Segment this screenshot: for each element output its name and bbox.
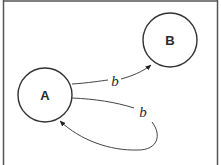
edge-a-to-b-label: b xyxy=(111,73,119,89)
node-b-label: B xyxy=(165,33,174,48)
node-a-label: A xyxy=(40,88,50,103)
state-diagram: A B b b xyxy=(0,0,221,165)
edge-a-self-loop-line-start[interactable] xyxy=(72,98,134,108)
edge-a-self-loop-label: b xyxy=(139,104,147,120)
edge-a-self-loop-line-end[interactable] xyxy=(60,121,157,150)
edge-a-to-b[interactable]: b xyxy=(72,65,151,89)
edge-a-self-loop[interactable]: b xyxy=(60,98,157,150)
node-a[interactable]: A xyxy=(18,68,72,122)
diagram-canvas: A B b b xyxy=(0,0,221,165)
edge-a-to-b-line-end[interactable] xyxy=(121,65,151,79)
edge-a-to-b-line-start[interactable] xyxy=(72,80,108,84)
node-b[interactable]: B xyxy=(143,13,197,67)
